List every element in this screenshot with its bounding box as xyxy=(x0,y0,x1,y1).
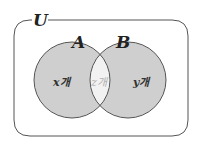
set-a-label: A xyxy=(70,32,85,52)
set-b-label: B xyxy=(115,32,130,52)
region-b-only-label: y개 xyxy=(132,76,151,89)
venn-diagram: U A B x개 z개 y개 xyxy=(0,0,200,147)
region-a-only-label: x개 xyxy=(52,76,72,89)
region-intersection-label: z개 xyxy=(90,76,109,89)
universe-label: U xyxy=(33,10,49,30)
